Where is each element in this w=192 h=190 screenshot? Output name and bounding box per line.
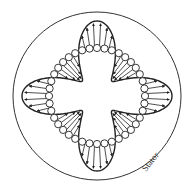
conductor (141, 85, 148, 92)
conductor (72, 135, 79, 142)
conductor (101, 45, 108, 52)
conductor (79, 138, 86, 145)
flux-arrow (99, 24, 100, 48)
flux-arrow (93, 24, 94, 48)
conductor (136, 71, 143, 78)
conductor (139, 78, 146, 85)
conductor (122, 131, 129, 138)
conductor (45, 92, 52, 99)
conductor (55, 121, 62, 128)
conductor (115, 50, 122, 57)
conductor (141, 100, 148, 107)
conductor (72, 50, 79, 57)
conductor (93, 140, 100, 147)
conductor (93, 44, 100, 51)
conductor (108, 47, 115, 54)
stator-flux-diagram: Stator (0, 0, 192, 190)
conductor (46, 85, 53, 92)
flux-arrow (93, 144, 94, 168)
flux-arrow (145, 98, 169, 99)
conductor (79, 47, 86, 54)
conductor (101, 140, 108, 147)
flux-arrow (145, 92, 169, 93)
conductor (46, 100, 53, 107)
conductor (51, 71, 58, 78)
flux-arrow (25, 92, 49, 93)
conductor (141, 92, 148, 99)
conductor (139, 107, 146, 114)
conductor (136, 114, 143, 121)
conductor (86, 140, 93, 147)
conductor (51, 114, 58, 121)
conductor (132, 64, 139, 71)
flux-arrow (25, 98, 49, 99)
flux-arrow (99, 144, 100, 168)
conductor (115, 135, 122, 142)
conductor (108, 138, 115, 145)
conductor (86, 45, 93, 52)
conductor (48, 107, 55, 114)
flux-density-envelope (22, 21, 172, 171)
rotor-conductor-ring (45, 44, 148, 147)
conductor (48, 78, 55, 85)
conductor (65, 54, 72, 61)
